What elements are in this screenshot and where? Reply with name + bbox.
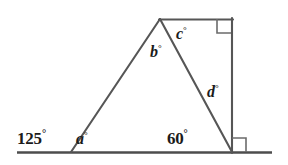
angle-label-a: a° bbox=[76, 131, 88, 147]
right-angle-marker-top-right-icon bbox=[217, 19, 231, 33]
angle-label-c: c° bbox=[176, 26, 187, 42]
degree-symbol-d: ° bbox=[215, 83, 219, 93]
degree-symbol-125: ° bbox=[42, 128, 46, 139]
degree-symbol-c: ° bbox=[183, 25, 187, 35]
angle-d-value: d bbox=[207, 83, 215, 100]
right-angle-marker-bottom-right-icon bbox=[232, 138, 246, 152]
angle-125-value: 125 bbox=[17, 129, 42, 148]
angle-label-b: b° bbox=[150, 44, 162, 60]
angle-a-value: a bbox=[76, 130, 84, 147]
angle-60-value: 60 bbox=[167, 129, 184, 148]
degree-symbol-a: ° bbox=[84, 130, 88, 140]
geometry-figure: 125° a° b° c° d° 60° bbox=[0, 0, 288, 165]
degree-symbol-60: ° bbox=[184, 128, 188, 139]
angle-b-value: b bbox=[150, 43, 158, 60]
degree-symbol-b: ° bbox=[158, 43, 162, 53]
angle-label-d: d° bbox=[207, 84, 219, 100]
angle-label-60: 60° bbox=[167, 129, 188, 147]
angle-label-125: 125° bbox=[17, 129, 46, 147]
